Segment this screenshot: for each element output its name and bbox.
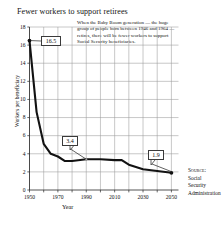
tick-marks — [27, 27, 171, 192]
y-tick-label: 4 — [12, 151, 26, 157]
chart-figure: Fewer workers to support retirees Worker… — [0, 0, 224, 226]
y-tick-label: 12 — [12, 78, 26, 84]
y-tick-label: 10 — [12, 96, 26, 102]
x-tick-label: 1990 — [73, 194, 99, 200]
y-tick-label: 8 — [12, 114, 26, 120]
callout-value-1950: 16.5 — [41, 36, 61, 46]
x-tick-label: 1970 — [45, 194, 71, 200]
x-tick-label: 2030 — [130, 194, 156, 200]
y-tick-label: 2 — [12, 169, 26, 175]
y-tick-label: 14 — [12, 60, 26, 66]
callout-value-1990: 3.4 — [62, 136, 78, 146]
y-tick-label: 0 — [12, 187, 26, 193]
plot-area — [0, 0, 224, 226]
x-tick-label: 1950 — [17, 194, 43, 200]
y-tick-label: 16 — [12, 42, 26, 48]
x-tick-label: 2010 — [102, 194, 128, 200]
y-tick-label: 6 — [12, 132, 26, 138]
y-tick-label: 18 — [12, 24, 26, 30]
x-tick-label: 2050 — [158, 194, 184, 200]
callout-value-2050: 1.9 — [148, 150, 164, 160]
